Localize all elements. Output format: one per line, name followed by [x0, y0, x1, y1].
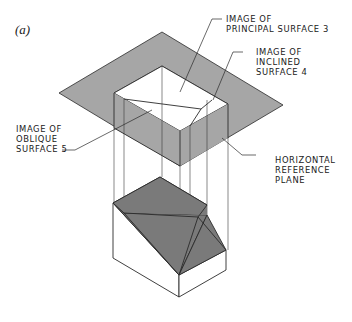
label-oblique-surface: IMAGE OF OBLIQUE SURFACE 5 [16, 124, 67, 154]
svg-text:SURFACE 5: SURFACE 5 [16, 144, 67, 154]
figure-label: (a) [15, 22, 30, 37]
svg-text:HORIZONTAL: HORIZONTAL [275, 155, 336, 165]
svg-text:INCLINED: INCLINED [256, 57, 301, 67]
label-horizontal-reference-plane: HORIZONTAL REFERENCE PLANE [275, 155, 336, 185]
svg-text:REFERENCE: REFERENCE [275, 165, 330, 175]
isometric-projection-diagram: (a) [0, 0, 352, 322]
svg-text:IMAGE OF: IMAGE OF [226, 14, 272, 24]
svg-text:SURFACE 4: SURFACE 4 [256, 67, 307, 77]
label-inclined-surface: IMAGE OF INCLINED SURFACE 4 [256, 47, 307, 77]
svg-text:IMAGE OF: IMAGE OF [256, 47, 302, 57]
label-principal-surface: IMAGE OF PRINCIPAL SURFACE 3 [226, 14, 329, 34]
svg-text:PLANE: PLANE [275, 175, 305, 185]
svg-text:PRINCIPAL SURFACE 3: PRINCIPAL SURFACE 3 [226, 24, 329, 34]
svg-text:IMAGE OF: IMAGE OF [16, 124, 62, 134]
svg-text:OBLIQUE: OBLIQUE [16, 134, 58, 144]
solid-object [113, 177, 226, 297]
